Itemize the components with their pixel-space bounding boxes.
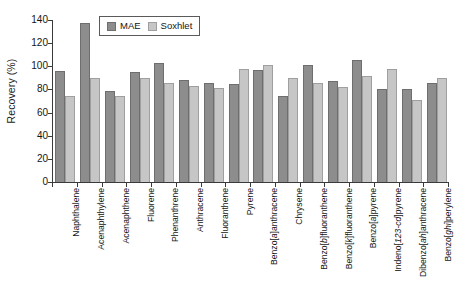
x-axis-tick — [225, 183, 226, 187]
bar-mae-12 — [328, 81, 338, 182]
x-axis-tick — [102, 183, 103, 187]
x-axis-tick — [176, 183, 177, 187]
legend-item-soxhlet: Soxhlet — [148, 21, 193, 31]
y-axis-tick — [48, 66, 52, 67]
x-axis-category-label: Acenaphthene — [120, 188, 132, 297]
x-axis-tick — [275, 183, 276, 187]
x-axis-tick — [448, 183, 449, 187]
x-axis-tick — [250, 183, 251, 187]
bar-mae-10 — [278, 96, 288, 182]
y-axis-tick-labels: 020406080100120140 — [22, 0, 48, 190]
bar-soxhlet-6 — [189, 86, 199, 182]
y-axis-tick — [48, 159, 52, 160]
bar-soxhlet-3 — [115, 96, 125, 182]
y-axis-tick-label: 120 — [22, 38, 48, 48]
bar-mae-3 — [105, 91, 115, 182]
x-axis-tick — [77, 183, 78, 187]
y-axis-tick-label: 40 — [22, 131, 48, 141]
bar-mae-6 — [179, 80, 189, 182]
y-axis-tick — [48, 43, 52, 44]
bar-mae-9 — [253, 70, 263, 182]
bar-soxhlet-2 — [90, 78, 100, 182]
legend-label-mae: MAE — [120, 21, 141, 31]
legend-label-soxhlet: Soxhlet — [161, 21, 193, 31]
y-axis-tick-label: 60 — [22, 108, 48, 118]
x-axis-category-label: Chrysene — [293, 188, 305, 297]
x-axis-tick — [423, 183, 424, 187]
bar-mae-1 — [55, 71, 65, 182]
x-axis-category-label: Benzo[a]pyrene — [367, 188, 379, 297]
x-axis-category-label: Benzo[a]anthracene — [268, 188, 280, 297]
y-axis-tick — [48, 89, 52, 90]
recovery-bar-chart: Recovery (%) 020406080100120140 MAESoxhl… — [0, 0, 454, 297]
x-axis-category-label: Benzo[b]fluoranthene — [318, 188, 330, 297]
x-axis-category-label: Naphthalene — [70, 188, 82, 297]
y-axis-tick-label: 140 — [22, 15, 48, 25]
x-axis-tick — [201, 183, 202, 187]
y-axis-title: Recovery (%) — [2, 0, 20, 182]
bar-soxhlet-9 — [263, 65, 273, 182]
bar-mae-2 — [80, 23, 90, 182]
legend-item-mae: MAE — [107, 21, 141, 31]
legend-swatch-mae — [107, 22, 116, 31]
x-axis-category-label: Pyrene — [244, 188, 256, 297]
x-axis-tick — [324, 183, 325, 187]
y-axis-tick-label: 100 — [22, 61, 48, 71]
x-axis-tick — [300, 183, 301, 187]
y-axis-tick-label: 0 — [22, 177, 48, 187]
bar-soxhlet-5 — [164, 83, 174, 182]
x-axis-category-label: Benzo[ghi]perylene — [442, 188, 454, 297]
bar-soxhlet-16 — [437, 78, 447, 182]
x-axis-category-label: Acenaphthylene — [95, 188, 107, 297]
bar-soxhlet-10 — [288, 78, 298, 182]
x-axis-tick — [349, 183, 350, 187]
x-axis-tick — [399, 183, 400, 187]
x-axis-category-label: Indeno[123-cd]pyrene — [392, 188, 404, 297]
x-axis-tick — [374, 183, 375, 187]
bar-soxhlet-12 — [338, 87, 348, 182]
y-axis-tick-label: 80 — [22, 84, 48, 94]
bar-mae-16 — [427, 83, 437, 182]
bar-soxhlet-14 — [387, 69, 397, 182]
bar-soxhlet-7 — [214, 88, 224, 182]
x-axis-category-label: Fluoranthene — [219, 188, 231, 297]
x-axis-category-label: Anthracene — [194, 188, 206, 297]
bar-mae-7 — [204, 83, 214, 183]
bar-soxhlet-15 — [412, 100, 422, 182]
x-axis-category-label: Fluorene — [145, 188, 157, 297]
chart-legend: MAESoxhlet — [99, 16, 200, 36]
bar-mae-8 — [229, 84, 239, 182]
x-axis-tick — [52, 183, 53, 187]
x-axis-tick — [151, 183, 152, 187]
bar-soxhlet-11 — [313, 83, 323, 182]
y-axis-tick-label: 20 — [22, 154, 48, 164]
bar-mae-14 — [377, 89, 387, 182]
bar-mae-13 — [352, 60, 362, 182]
legend-swatch-soxhlet — [148, 22, 157, 31]
x-axis-tick — [126, 183, 127, 187]
bar-soxhlet-13 — [362, 76, 372, 182]
bar-soxhlet-1 — [65, 96, 75, 182]
y-axis-tick — [48, 113, 52, 114]
x-axis-category-label: Benzo[k]fluoranthene — [343, 188, 355, 297]
y-axis-tick — [48, 20, 52, 21]
bars-layer — [53, 20, 449, 182]
x-axis-category-label: Dibenzo[ah]anthracene — [417, 188, 429, 297]
bar-soxhlet-4 — [140, 78, 150, 182]
bar-mae-11 — [303, 65, 313, 182]
x-axis-category-labels: NaphthaleneAcenaphthyleneAcenaphtheneFlu… — [53, 188, 449, 296]
y-axis-tick — [48, 136, 52, 137]
plot-area — [52, 20, 448, 182]
bar-mae-4 — [130, 72, 140, 182]
x-axis-category-label: Phenanthrene — [169, 188, 181, 297]
bar-mae-5 — [154, 63, 164, 182]
bar-mae-15 — [402, 89, 412, 182]
bar-soxhlet-8 — [239, 69, 249, 182]
